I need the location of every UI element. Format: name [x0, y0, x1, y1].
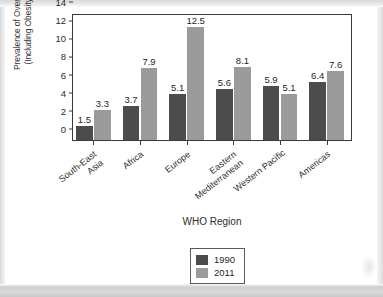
bar-2011-south-east-asia: [94, 110, 111, 140]
y-axis-title: Prevalence of Overweight (Including Obes…: [12, 0, 33, 103]
y-tick-0: 0: [50, 124, 73, 135]
legend-label-2011: 2011: [214, 267, 234, 278]
x-category-label-western-pacific: Western Pacific: [232, 149, 286, 194]
value-label-1990-africa: 3.7: [124, 94, 137, 105]
bar-2011-western-pacific: [281, 94, 298, 140]
y-tick-12: 12: [50, 15, 73, 26]
bar-1990-americas: [309, 82, 326, 140]
x-tick-eastern-mediterranean: [233, 140, 234, 145]
y-tick-label: 12: [50, 15, 66, 26]
bar-chart: Prevalence of Overweight (Including Obes…: [0, 0, 383, 297]
bar-1990-europe: [169, 94, 186, 140]
y-tick-14: 14: [50, 0, 73, 8]
y-tick-label: 6: [50, 69, 66, 80]
value-label-2011-western-pacific: 5.1: [282, 82, 295, 93]
y-tick-10: 10: [50, 33, 73, 44]
legend-swatch-1990: [196, 255, 208, 265]
screenshot-page: Prevalence of Overweight (Including Obes…: [0, 0, 383, 297]
bar-2011-americas: [327, 71, 344, 140]
value-label-1990-americas: 6.4: [311, 70, 324, 81]
value-label-2011-eastern-mediterranean: 8.1: [236, 55, 249, 66]
y-tick-4: 4: [50, 87, 73, 98]
y-tick-label: 10: [50, 33, 66, 44]
x-tick-western-pacific: [280, 140, 281, 145]
y-tick-6: 6: [50, 69, 73, 80]
x-category-label-line: Western Pacific: [232, 149, 286, 194]
value-label-1990-europe: 5.1: [171, 82, 184, 93]
y-tick-label: 0: [50, 124, 66, 135]
value-label-2011-europe: 12.5: [186, 15, 205, 26]
bar-1990-eastern-mediterranean: [216, 89, 233, 140]
x-category-label-line: Africa: [92, 149, 146, 194]
value-label-1990-eastern-mediterranean: 5.6: [218, 77, 231, 88]
legend-item-2011: 2011: [196, 266, 235, 279]
plot-area: 02468101214 1.53.33.77.95.112.55.68.15.9…: [72, 14, 352, 141]
bars-layer: 1.53.33.77.95.112.55.68.15.95.16.47.6: [73, 15, 351, 140]
chart-legend: 1990 2011: [190, 248, 245, 284]
y-tick-label: 8: [50, 51, 66, 62]
bar-2011-africa: [141, 68, 158, 140]
legend-swatch-2011: [196, 268, 208, 278]
value-label-1990-south-east-asia: 1.5: [78, 114, 91, 125]
y-tick-label: 4: [50, 87, 66, 98]
x-category-label-europe: Europe: [138, 149, 192, 194]
x-category-label-eastern-mediterranean: EasternMediterranean: [185, 149, 245, 202]
y-tick-2: 2: [50, 105, 73, 116]
bar-1990-western-pacific: [263, 86, 280, 140]
legend-label-1990: 1990: [214, 254, 235, 265]
x-tick-europe: [187, 140, 188, 145]
x-axis-title: WHO Region: [72, 216, 352, 227]
x-category-label-line: Europe: [138, 149, 192, 194]
value-label-2011-americas: 7.6: [329, 59, 342, 70]
y-axis-title-line1: Prevalence of Overweight: [12, 0, 22, 70]
y-axis-title-line2: (Including Obesity) (%): [22, 0, 33, 103]
value-label-1990-western-pacific: 5.9: [264, 74, 277, 85]
legend-item-1990: 1990: [196, 253, 235, 266]
y-tick-mark: [69, 2, 73, 3]
x-tick-americas: [327, 140, 328, 145]
bar-1990-south-east-asia: [76, 126, 93, 140]
y-tick-label: 2: [50, 105, 66, 116]
value-label-2011-south-east-asia: 3.3: [96, 98, 109, 109]
y-tick-8: 8: [50, 51, 73, 62]
x-category-label-south-east-asia: South-EastAsia: [45, 149, 105, 202]
x-tick-africa: [140, 140, 141, 145]
bar-1990-africa: [123, 106, 140, 140]
bar-2011-europe: [187, 27, 204, 140]
y-tick-label: 14: [50, 0, 66, 8]
x-tick-south-east-asia: [93, 140, 94, 145]
value-label-2011-africa: 7.9: [142, 56, 155, 67]
bar-2011-eastern-mediterranean: [234, 67, 251, 140]
x-category-label-africa: Africa: [92, 149, 146, 194]
